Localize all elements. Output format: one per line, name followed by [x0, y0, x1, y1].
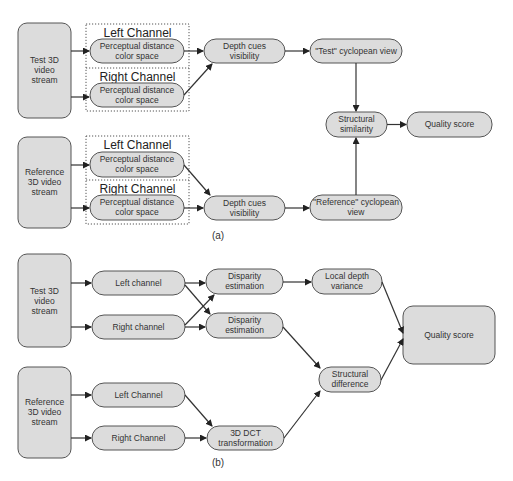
svg-text:video: video	[34, 65, 55, 75]
svg-text:Quality score: Quality score	[425, 119, 475, 129]
ref-right-channel-title: Right Channel	[99, 182, 175, 196]
b-test-stream-node: Test 3D video stream	[18, 254, 71, 347]
b-3d-dct-node: 3D DCT transformation	[207, 426, 284, 450]
svg-text:Left channel: Left channel	[115, 278, 161, 288]
svg-text:Structural: Structural	[332, 369, 368, 379]
svg-text:3D video: 3D video	[28, 177, 62, 187]
test-right-channel-title: Right Channel	[99, 70, 175, 84]
svg-text:Disparity: Disparity	[228, 315, 262, 325]
a-test-right-perceptual-node: Perceptual distance color space	[90, 83, 184, 107]
svg-text:variance: variance	[331, 281, 363, 291]
svg-text:estimation: estimation	[225, 281, 264, 291]
a-ref-right-perceptual-node: Perceptual distance color space	[90, 195, 184, 220]
svg-text:Right Channel: Right Channel	[112, 433, 166, 443]
svg-text:3D video: 3D video	[28, 407, 62, 417]
a-structural-similarity-node: Structural similarity	[326, 112, 387, 137]
svg-text:"Test" cyclopean view: "Test" cyclopean view	[315, 46, 397, 56]
svg-text:difference: difference	[331, 379, 368, 389]
svg-text:stream: stream	[32, 75, 58, 85]
caption-b: (b)	[212, 457, 224, 468]
b-ref-right-channel-node: Right Channel	[92, 426, 185, 450]
b-edges	[71, 282, 403, 438]
svg-text:visibility: visibility	[230, 208, 260, 218]
svg-text:Perceptual distance: Perceptual distance	[100, 154, 175, 164]
svg-text:"Reference" cyclopean: "Reference" cyclopean	[313, 197, 399, 207]
b-test-right-channel-node: Right channel	[92, 315, 185, 339]
svg-text:view: view	[347, 207, 365, 217]
svg-text:Disparity: Disparity	[228, 271, 262, 281]
svg-text:stream: stream	[32, 306, 58, 316]
flow-diagram: Left Channel Right Channel Left Channel …	[0, 0, 513, 481]
svg-text:Depth cues: Depth cues	[223, 41, 266, 51]
svg-text:3D DCT: 3D DCT	[230, 428, 261, 438]
svg-text:color space: color space	[115, 51, 159, 61]
svg-text:Depth cues: Depth cues	[223, 198, 266, 208]
b-disparity-estimation-2-node: Disparity estimation	[206, 313, 283, 338]
a-test-stream-node: Test 3D video stream	[18, 23, 71, 118]
a-test-left-perceptual-node: Perceptual distance color space	[90, 39, 184, 63]
svg-text:Quality score: Quality score	[424, 330, 474, 340]
b-reference-stream-node: Reference 3D video stream	[18, 367, 71, 458]
svg-text:Perceptual distance: Perceptual distance	[100, 197, 175, 207]
svg-text:Reference: Reference	[25, 397, 64, 407]
svg-text:Left Channel: Left Channel	[114, 390, 162, 400]
svg-text:visibility: visibility	[230, 51, 260, 61]
svg-text:stream: stream	[32, 187, 58, 197]
a-quality-score-node: Quality score	[407, 112, 492, 137]
svg-text:color space: color space	[115, 95, 159, 105]
a-ref-left-perceptual-node: Perceptual distance color space	[90, 152, 184, 177]
svg-text:similarity: similarity	[340, 124, 374, 134]
a-test-cyclopean-node: "Test" cyclopean view	[310, 39, 402, 63]
svg-text:estimation: estimation	[225, 325, 264, 335]
a-depth-cues-reference-node: Depth cues visibility	[204, 196, 285, 220]
b-local-depth-variance-node: Local depth variance	[312, 269, 382, 294]
svg-text:Perceptual distance: Perceptual distance	[100, 41, 175, 51]
svg-text:Structural: Structural	[338, 114, 374, 124]
svg-text:color space: color space	[115, 164, 159, 174]
b-disparity-estimation-1-node: Disparity estimation	[206, 269, 283, 294]
b-quality-score-node: Quality score	[403, 306, 495, 364]
svg-text:color space: color space	[115, 207, 159, 217]
svg-text:Perceptual distance: Perceptual distance	[100, 85, 175, 95]
svg-text:video: video	[34, 296, 55, 306]
a-depth-cues-test-node: Depth cues visibility	[204, 39, 285, 63]
test-left-channel-title: Left Channel	[103, 26, 171, 40]
a-reference-stream-node: Reference 3D video stream	[18, 137, 71, 228]
svg-text:Test 3D: Test 3D	[30, 55, 59, 65]
caption-a: (a)	[212, 230, 224, 241]
svg-text:Reference: Reference	[25, 167, 64, 177]
b-test-left-channel-node: Left channel	[92, 271, 185, 295]
svg-text:stream: stream	[32, 417, 58, 427]
svg-text:Test 3D: Test 3D	[30, 286, 59, 296]
a-reference-cyclopean-node: "Reference" cyclopean view	[310, 195, 402, 220]
svg-text:Local depth: Local depth	[325, 271, 369, 281]
b-ref-left-channel-node: Left Channel	[92, 383, 185, 407]
ref-left-channel-title: Left Channel	[103, 138, 171, 152]
b-structural-difference-node: Structural difference	[319, 367, 381, 392]
svg-text:transformation: transformation	[218, 438, 273, 448]
svg-text:Right channel: Right channel	[113, 322, 165, 332]
